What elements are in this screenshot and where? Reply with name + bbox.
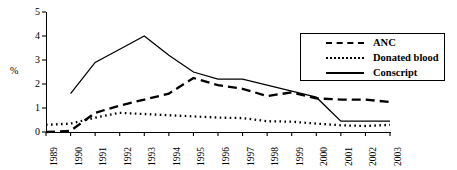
chart-legend: ANC Donated blood Conscript (300, 33, 445, 81)
legend-swatch-dotted-icon (326, 57, 364, 62)
legend-label-anc: ANC (373, 37, 396, 48)
legend-label-conscript: Conscript (373, 67, 417, 78)
legend-item-anc: ANC (301, 36, 444, 51)
chart-plot-layer (0, 0, 457, 170)
chart-container: % 012345 1989199019911992199319941995199… (0, 0, 457, 170)
legend-swatch-solid-icon (326, 72, 364, 77)
series-line-anc (46, 78, 390, 132)
legend-item-donated-blood: Donated blood (301, 51, 444, 66)
legend-swatch-dashed-icon (326, 42, 364, 47)
legend-label-donated-blood: Donated blood (373, 52, 439, 63)
legend-item-conscript: Conscript (301, 66, 444, 81)
